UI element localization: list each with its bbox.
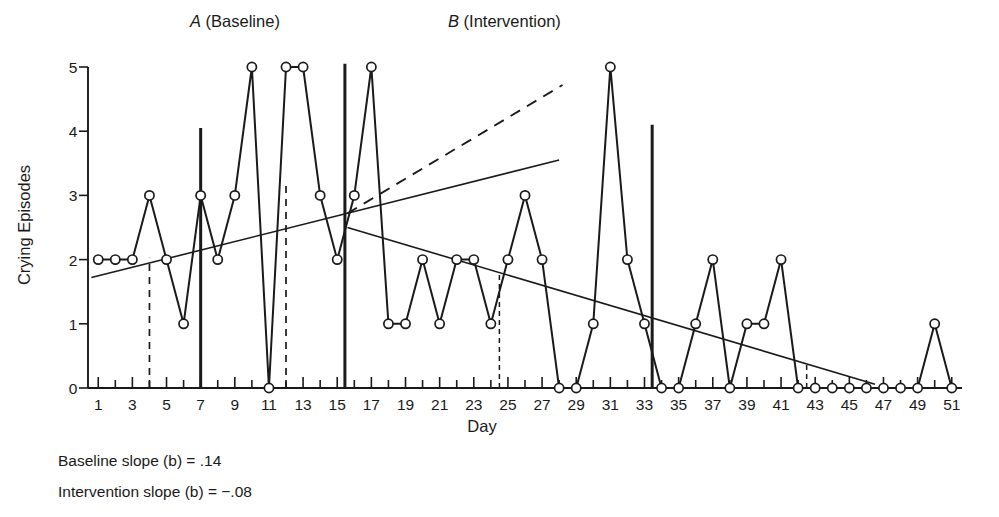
data-point (452, 255, 461, 264)
x-tick-label: 3 (128, 396, 137, 413)
data-point (794, 383, 803, 392)
x-tick-label: 7 (196, 396, 205, 413)
phase-a-heading: A (Baseline) (189, 12, 280, 30)
y-tick-label: 5 (69, 59, 78, 76)
y-tick-label: 0 (69, 380, 78, 397)
phase-b-text: (Intervention) (459, 12, 561, 30)
x-tick-label: 9 (230, 396, 239, 413)
data-point (572, 383, 581, 392)
data-point (913, 383, 922, 392)
x-tick-label: 27 (533, 396, 550, 413)
data-point (469, 255, 478, 264)
data-point (862, 383, 871, 392)
data-point (128, 255, 137, 264)
x-tick-label: 43 (807, 396, 824, 413)
x-tick-label: 39 (738, 396, 755, 413)
data-point (367, 62, 376, 71)
y-axis-title: Crying Episodes (15, 165, 33, 285)
data-point (179, 319, 188, 328)
x-tick-label: 11 (261, 396, 277, 413)
data-point (589, 319, 598, 328)
data-point (674, 383, 683, 392)
data-point (401, 319, 410, 328)
x-tick-label: 17 (363, 396, 380, 413)
data-point (947, 383, 956, 392)
data-point (520, 191, 529, 200)
data-point (213, 255, 222, 264)
data-point (691, 319, 700, 328)
x-tick-label: 21 (431, 396, 448, 413)
data-point (811, 383, 820, 392)
x-tick-label: 31 (602, 396, 619, 413)
data-point (503, 255, 512, 264)
x-tick-label: 29 (568, 396, 585, 413)
data-point (845, 383, 854, 392)
data-point (384, 319, 393, 328)
data-point (657, 383, 666, 392)
data-point (435, 319, 444, 328)
x-tick-label: 15 (329, 396, 346, 413)
x-tick-label: 13 (294, 396, 311, 413)
x-axis-title: Day (467, 417, 497, 435)
caption-intervention-slope: Intervention slope (b) = −.08 (58, 483, 252, 500)
x-tick-label: 23 (465, 396, 482, 413)
data-point (247, 62, 256, 71)
data-point (111, 255, 120, 264)
data-point (350, 191, 359, 200)
x-tick-label: 1 (94, 396, 103, 413)
x-tick-label: 37 (704, 396, 721, 413)
data-point (742, 319, 751, 328)
y-tick-label: 1 (69, 316, 78, 333)
data-point (828, 383, 837, 392)
data-point (486, 319, 495, 328)
y-tick-label: 4 (69, 123, 78, 140)
x-tick-label: 33 (636, 396, 653, 413)
data-point (879, 383, 888, 392)
crying-episodes-chart: A (Baseline) B (Intervention) Crying Epi… (0, 0, 999, 517)
data-point (316, 191, 325, 200)
y-tick-label: 2 (69, 252, 78, 269)
x-tick-label: 19 (397, 396, 414, 413)
data-point (555, 383, 564, 392)
data-point (708, 255, 717, 264)
x-tick-label: 35 (670, 396, 687, 413)
data-point (776, 255, 785, 264)
data-point (281, 62, 290, 71)
data-point (930, 319, 939, 328)
data-point (537, 255, 546, 264)
x-tick-label: 5 (162, 396, 171, 413)
data-point (333, 255, 342, 264)
chart-background (0, 0, 999, 517)
y-tick-label: 3 (69, 187, 78, 204)
data-point (759, 319, 768, 328)
phase-b-heading: B (Intervention) (448, 12, 561, 30)
data-point (623, 255, 632, 264)
x-tick-label: 47 (875, 396, 892, 413)
data-point (264, 383, 273, 392)
data-point (196, 191, 205, 200)
data-point (725, 383, 734, 392)
caption-baseline-slope: Baseline slope (b) = .14 (58, 452, 222, 469)
x-tick-label: 51 (943, 396, 960, 413)
data-point (640, 319, 649, 328)
phase-a-letter: A (189, 12, 201, 30)
x-tick-label: 45 (841, 396, 858, 413)
data-point (606, 62, 615, 71)
data-point (145, 191, 154, 200)
x-tick-label: 41 (772, 396, 789, 413)
x-tick-label: 25 (499, 396, 516, 413)
data-point (896, 383, 905, 392)
phase-a-text: (Baseline) (201, 12, 280, 30)
data-point (162, 255, 171, 264)
x-tick-label: 49 (909, 396, 926, 413)
data-point (298, 62, 307, 71)
data-point (94, 255, 103, 264)
data-point (230, 191, 239, 200)
data-point (418, 255, 427, 264)
phase-b-letter: B (448, 12, 459, 30)
